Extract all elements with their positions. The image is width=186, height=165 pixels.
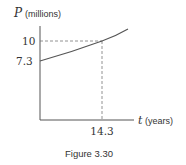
x-axis-unit: (years): [145, 116, 173, 126]
curve-line: [40, 29, 128, 61]
chart: P (millions) 10 7.3 t (years) 14.3 Figur…: [0, 0, 186, 165]
y-tick-10: 10: [22, 35, 35, 47]
y-axis-var: P: [13, 6, 23, 20]
figure-caption: Figure 3.30: [65, 148, 113, 159]
y-tick-7-3: 7.3: [16, 55, 33, 67]
x-axis-var: t: [138, 114, 143, 127]
y-axis-unit: (millions): [25, 9, 61, 19]
x-tick-14-3: 14.3: [90, 125, 113, 137]
